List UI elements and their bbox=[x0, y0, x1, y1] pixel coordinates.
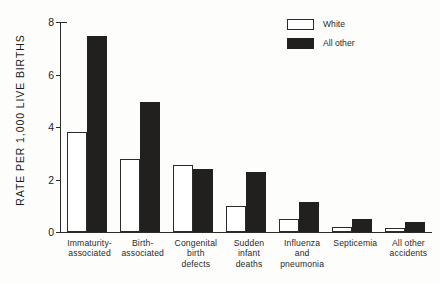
legend-label: White bbox=[323, 19, 345, 29]
y-tick-label: 2 bbox=[48, 174, 54, 186]
category-label-line: associated bbox=[62, 248, 117, 258]
bar-chart: RATE PER 1,000 LIVE BIRTHS 02468 Immatur… bbox=[0, 0, 440, 284]
legend: WhiteAll other bbox=[287, 17, 407, 55]
category-label-line: Septicemia bbox=[328, 238, 383, 248]
y-axis-title: RATE PER 1,000 LIVE BIRTHS bbox=[10, 4, 30, 236]
bar bbox=[120, 159, 140, 233]
y-tick-label: 4 bbox=[48, 121, 54, 133]
y-tick: 8 bbox=[60, 22, 61, 23]
category-label-line: Congenital bbox=[168, 238, 223, 248]
y-tick-mark bbox=[56, 127, 60, 128]
category-label-line: deaths bbox=[221, 259, 276, 269]
bar bbox=[279, 219, 299, 232]
bar bbox=[385, 228, 405, 232]
category-label-line: defects bbox=[168, 259, 223, 269]
y-tick-mark bbox=[56, 180, 60, 181]
x-axis-category-label: Birth-associated bbox=[115, 238, 170, 259]
legend-swatch bbox=[287, 19, 314, 30]
y-tick: 4 bbox=[60, 127, 61, 128]
category-label-line: birth bbox=[168, 248, 223, 258]
category-label-line: associated bbox=[115, 248, 170, 258]
bar-group bbox=[226, 22, 266, 232]
category-label-line: pneumonia bbox=[275, 259, 330, 269]
bar bbox=[226, 206, 246, 232]
y-tick-mark bbox=[56, 75, 60, 76]
y-tick: 2 bbox=[60, 180, 61, 181]
category-label-line: Immaturity- bbox=[62, 238, 117, 248]
bar-group bbox=[120, 22, 160, 232]
x-axis-category-label: Influenzaandpneumonia bbox=[275, 238, 330, 269]
legend-item: White bbox=[287, 17, 407, 31]
legend-swatch bbox=[287, 38, 314, 49]
y-tick-mark bbox=[56, 22, 60, 23]
bar bbox=[67, 132, 87, 232]
y-tick-label: 8 bbox=[48, 16, 54, 28]
bar bbox=[352, 219, 372, 232]
category-label-line: infant bbox=[221, 248, 276, 258]
bar-group bbox=[67, 22, 107, 232]
legend-label: All other bbox=[323, 38, 355, 48]
category-label-line: All other bbox=[381, 238, 436, 248]
category-label-line: Influenza bbox=[275, 238, 330, 248]
bar bbox=[246, 172, 266, 232]
category-label-line: Birth- bbox=[115, 238, 170, 248]
bar bbox=[173, 165, 193, 232]
category-label-line: Sudden bbox=[221, 238, 276, 248]
y-tick-label: 6 bbox=[48, 69, 54, 81]
category-label-line: and bbox=[275, 248, 330, 258]
y-tick: 0 bbox=[60, 232, 61, 233]
bar bbox=[193, 169, 213, 232]
x-axis-category-label: Suddeninfantdeaths bbox=[221, 238, 276, 269]
category-label-line: accidents bbox=[381, 248, 436, 258]
bar bbox=[405, 222, 425, 233]
bar bbox=[332, 227, 352, 232]
x-axis-category-label: Congenitalbirthdefects bbox=[168, 238, 223, 269]
y-tick-label: 0 bbox=[48, 226, 54, 238]
x-axis-category-label: Immaturity-associated bbox=[62, 238, 117, 259]
bar-group bbox=[173, 22, 213, 232]
x-axis-line bbox=[60, 232, 432, 233]
bar bbox=[87, 36, 107, 232]
y-tick-mark bbox=[56, 232, 60, 233]
bar bbox=[140, 102, 160, 232]
bar bbox=[299, 202, 319, 232]
x-axis-category-label: All otheraccidents bbox=[381, 238, 436, 259]
y-tick: 6 bbox=[60, 75, 61, 76]
x-axis-category-label: Septicemia bbox=[328, 238, 383, 248]
legend-item: All other bbox=[287, 36, 407, 50]
